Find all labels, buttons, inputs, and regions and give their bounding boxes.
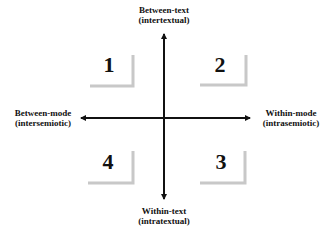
quadrant-3-number: 3 (209, 151, 233, 173)
quadrant-4-number: 4 (96, 151, 120, 173)
left-axis-label-line2: (intersemiotic) (8, 118, 78, 128)
bottom-axis-label-line1: Within-text (114, 206, 214, 216)
quadrant-diagram: Between-text (intertextual) Within-text … (0, 0, 331, 235)
bottom-axis-label: Within-text (intratextual) (114, 206, 214, 226)
left-axis-label-line1: Between-mode (8, 108, 78, 118)
bottom-axis-label-line2: (intratextual) (114, 216, 214, 226)
right-axis-label: Within-mode (intrasemiotic) (254, 108, 328, 128)
quadrant-1-number: 1 (97, 54, 121, 76)
right-axis-label-line1: Within-mode (254, 108, 328, 118)
top-axis-label: Between-text (intertextual) (114, 5, 214, 25)
quadrant-2-number: 2 (208, 54, 232, 76)
left-axis-label: Between-mode (intersemiotic) (8, 108, 78, 128)
top-axis-label-line1: Between-text (114, 5, 214, 15)
right-axis-label-line2: (intrasemiotic) (254, 118, 328, 128)
top-axis-label-line2: (intertextual) (114, 15, 214, 25)
